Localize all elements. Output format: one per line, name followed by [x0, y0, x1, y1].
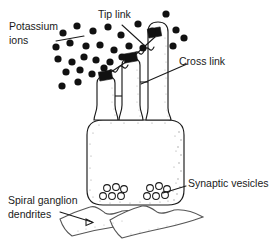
potassium-ion	[110, 46, 117, 53]
potassium-ion	[172, 26, 179, 33]
potassium-ion	[139, 44, 146, 51]
label-synaptic-vesicles: Synaptic vesicles	[188, 177, 269, 189]
potassium-ion	[117, 31, 124, 38]
potassium-ion	[76, 66, 83, 73]
potassium-ion	[58, 82, 65, 89]
potassium-ion	[52, 43, 59, 50]
ion-channel-short	[98, 70, 112, 81]
label-cross-link: Cross link	[179, 55, 226, 67]
synaptic-vesicle	[121, 186, 128, 193]
synaptic-vesicle	[118, 193, 125, 200]
potassium-ion	[180, 34, 187, 41]
synaptic-vesicle	[104, 185, 111, 192]
potassium-ion	[89, 27, 96, 34]
potassium-ion	[82, 42, 89, 49]
label-tip-link: Tip link	[98, 8, 132, 20]
synaptic-vesicle	[109, 193, 116, 200]
potassium-ion	[66, 39, 73, 46]
potassium-ion	[80, 53, 87, 60]
potassium-ion	[118, 53, 125, 60]
potassium-ion	[92, 56, 99, 63]
hair-cell-diagram: Potassium ions Tip link Cross link Synap…	[0, 0, 272, 247]
potassium-ion	[162, 10, 169, 17]
potassium-ion	[73, 22, 80, 29]
potassium-ion	[74, 78, 81, 85]
label-potassium-ions-line1: Potassium	[9, 20, 58, 32]
potassium-ion	[54, 55, 61, 62]
potassium-ion	[148, 27, 155, 34]
potassium-ion	[125, 42, 132, 49]
stereocilium-short	[94, 76, 118, 120]
potassium-ion	[106, 58, 113, 65]
potassium-ion	[59, 29, 66, 36]
potassium-ion	[68, 58, 75, 65]
synaptic-vesicle	[113, 184, 120, 191]
potassium-ion	[104, 23, 111, 30]
potassium-ion	[96, 41, 103, 48]
label-spiral-ganglion-dendrites-line2: dendrites	[8, 208, 51, 220]
label-spiral-ganglion-dendrites-line1: Spiral ganglion	[8, 194, 78, 206]
potassium-ion	[62, 68, 69, 75]
synaptic-vesicle	[100, 193, 107, 200]
diagram-canvas: Potassium ions Tip link Cross link Synap…	[0, 0, 272, 247]
potassium-ion	[134, 20, 141, 27]
potassium-ion	[88, 70, 95, 77]
synaptic-vesicle	[156, 183, 163, 190]
hair-cell-body	[87, 120, 184, 205]
potassium-ion	[100, 64, 107, 71]
potassium-ion	[169, 42, 176, 49]
synaptic-vesicle	[144, 193, 151, 200]
label-potassium-ions-line2: ions	[9, 34, 28, 46]
synaptic-vesicle	[147, 185, 154, 192]
synaptic-vesicle	[153, 193, 160, 200]
